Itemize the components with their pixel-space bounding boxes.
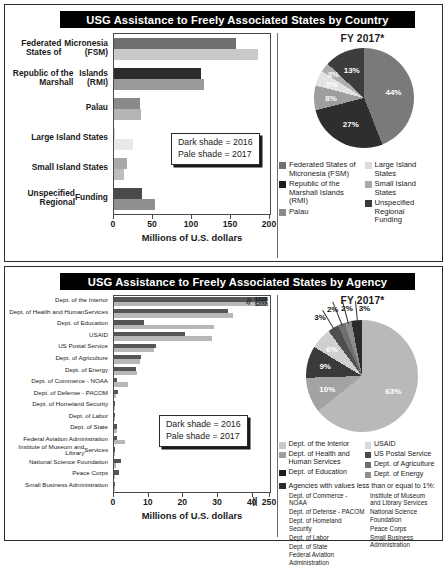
country-category-labels: Federated States ofMicronesia (FSM)Repub… [9, 33, 111, 213]
bar-group [114, 309, 270, 318]
bar-pale [114, 406, 115, 410]
bar-group [114, 470, 270, 479]
bar-pale [114, 371, 137, 375]
tick-label-break: 250 [262, 497, 276, 507]
bar-value-note: $203B [255, 297, 268, 302]
category-label: Dept. of State [9, 422, 111, 434]
bar-pale [114, 139, 133, 150]
category-label: Large Island States [9, 123, 111, 153]
legend-item-label: Palau [289, 208, 308, 217]
pie-slice-label: 9% [319, 362, 331, 371]
bar-pale [114, 417, 115, 421]
legend-swatch-icon [279, 209, 286, 216]
legend-item-label: Dept. of Energy [374, 471, 423, 479]
tick-label: 150 [223, 219, 237, 229]
legend-item-label: Large IslandStates [375, 161, 417, 178]
agency-panel: USG Assistance to Freely Associated Stat… [4, 266, 443, 541]
legend-item-label: Republic of theMarshall Islands(RMI) [289, 180, 344, 206]
bar-group [114, 68, 270, 90]
legend-item: Dept. of Energy [365, 471, 447, 479]
legend-swatch-icon [365, 462, 372, 469]
pie-slice-label: 10% [319, 384, 335, 393]
agency-legend-note: Agencies with values less than or equal … [279, 482, 446, 490]
legend-item: Republic of theMarshall Islands(RMI) [279, 180, 361, 206]
bar-pale [114, 109, 141, 120]
bar-pale [114, 382, 128, 386]
bar-group [114, 482, 270, 491]
bar-pale [114, 199, 155, 210]
bar-pale [114, 325, 214, 329]
category-label: Dept. of Defense - PACOM [9, 387, 111, 399]
sublist-item: Dept. of Homeland Security [289, 517, 365, 532]
legend-item: Dept. of the Interior [279, 441, 361, 449]
country-bar-chart: Federated States ofMicronesia (FSM)Repub… [9, 33, 275, 258]
legend-swatch-icon [365, 181, 372, 188]
legend-item: Dept. of Health andHuman Services [279, 451, 361, 467]
bar-pale [114, 394, 116, 398]
pie-slice-label: 5% [326, 80, 338, 89]
bar-group [114, 188, 270, 210]
agency-legend-note-label: Agencies with values less than or equal … [289, 482, 435, 490]
bar-pale [114, 359, 140, 363]
agency-pie-section: FY 2017* 63%10%9%6%3%2%2%3% Dept. of the… [279, 295, 446, 539]
category-label: Federated States ofMicronesia (FSM) [9, 33, 111, 63]
sublist-item: Dept. of Defense - PACOM [289, 508, 365, 516]
tick-label: 20 [178, 497, 188, 507]
bar-pale [114, 348, 154, 352]
legend-swatch-icon [279, 162, 286, 169]
category-label: Dept. of Education [9, 318, 111, 330]
legend-item: US Postal Service [365, 451, 447, 459]
bar-dark [114, 188, 142, 199]
country-legend: Federated States ofMicronesia (FSM)Repub… [279, 161, 446, 227]
bar-group [114, 320, 270, 329]
pie-slice-label: 3% [359, 304, 371, 313]
legend-item: Dept. of Education [279, 469, 361, 477]
sublist-item: Institute of Museumand Library Services [370, 492, 446, 507]
panel-divider [277, 33, 278, 258]
panel-divider [277, 295, 278, 537]
country-tick-labels: 050100150200 [113, 219, 271, 231]
pie-slice-label: 6% [326, 344, 338, 353]
bar-group [114, 390, 270, 399]
bar-group [114, 98, 270, 120]
agency-shade-key: Dark shade = 2016 Pale shade = 2017 [159, 415, 248, 447]
bar-value-note: $206B [255, 302, 268, 307]
agency-tick-labels: 010203040||250 [113, 497, 271, 509]
legend-swatch-icon [279, 470, 286, 477]
category-label: Dept. of Agriculture [9, 353, 111, 365]
bar-pale [114, 302, 267, 306]
legend-swatch-icon [279, 181, 286, 188]
country-pie: 44%27%8%5%3%13% [314, 48, 414, 148]
agency-plot-area: ||$203B$206B [113, 295, 271, 493]
category-label: Institute of Museum and LibraryServices [9, 445, 111, 457]
agency-legend-col-left: Dept. of the InteriorDept. of Health and… [279, 441, 361, 481]
bar-pale [114, 313, 233, 317]
country-pie-section: FY 2017* 44%27%8%5%3%13% Federated State… [279, 33, 446, 261]
bar-pale [114, 486, 115, 490]
axis-break-icon: || [253, 496, 258, 506]
bar-group [114, 459, 270, 468]
category-label: Republic of the MarshallIslands (RMI) [9, 63, 111, 93]
country-axis-title: Millions of U.S. dollars [113, 232, 271, 243]
sublist-item: Small BusinessAdministration [370, 534, 446, 549]
category-label: US Postal Service [9, 341, 111, 353]
legend-item: UnspecifiedRegionalFunding [365, 199, 447, 225]
pie-slice-label: 8% [325, 94, 337, 103]
tick-label: 200 [262, 219, 276, 229]
category-label: Dept. of Commerce - NOAA [9, 376, 111, 388]
legend-item-label: US Postal Service [374, 451, 431, 459]
bar-pale [114, 49, 258, 60]
shade-key-dark-line: Dark shade = 2016 [166, 419, 241, 431]
legend-swatch-icon [365, 442, 372, 449]
category-label: Dept. of the Interior [9, 295, 111, 307]
country-legend-col-left: Federated States ofMicronesia (FSM)Repub… [279, 161, 361, 227]
category-label: Unspecified RegionalFunding [9, 183, 111, 213]
category-label: Dept. of Health and HumanServices [9, 307, 111, 319]
bar-pale [114, 429, 117, 433]
sublist-item: Dept. of Commerce - NOAA [289, 492, 365, 507]
legend-item-label: Federated States ofMicronesia (FSM) [289, 161, 356, 178]
legend-item-label: Dept. of Health andHuman Services [289, 451, 350, 467]
tick-label: 100 [184, 219, 198, 229]
agency-pie: 63%10%9%6%3%2%2%3% [306, 320, 418, 432]
